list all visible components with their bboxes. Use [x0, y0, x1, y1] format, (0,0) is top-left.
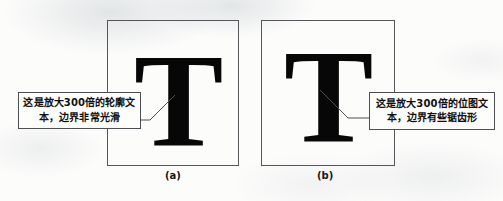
caption-panel-a: (a) [165, 170, 181, 181]
callout-outline-line-2: 本，边界非常光滑 [39, 111, 120, 126]
callout-bitmap-line-2: 本，边界有些锯齿形 [387, 111, 478, 126]
callout-outline-line-1: 这是放大300倍的轮廓文 [23, 96, 135, 111]
letter-t-outline-glyph: T [134, 34, 223, 168]
letter-t-bitmap-glyph: T [284, 30, 373, 164]
callout-bitmap-text: 这是放大300倍的位图文 本，边界有些锯齿形 [369, 92, 495, 130]
callout-outline-text: 这是放大300倍的轮廓文 本，边界非常光滑 [18, 92, 141, 129]
figure-root: T T 这是放大300倍的轮廓文 本，边界非常光滑 这是放大300倍的位图文 本… [0, 0, 503, 201]
caption-panel-b: (b) [317, 170, 333, 181]
callout-bitmap-line-1: 这是放大300倍的位图文 [376, 97, 488, 112]
